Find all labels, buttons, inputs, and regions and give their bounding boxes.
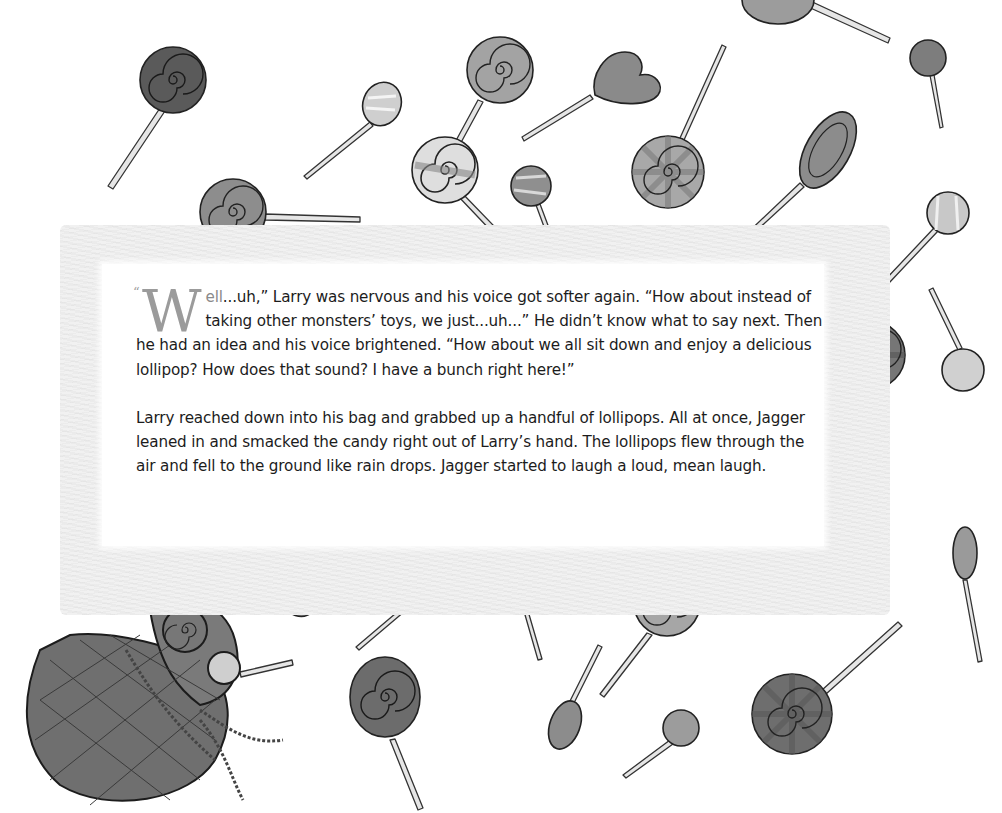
drop-cap: W (142, 289, 201, 333)
storybook-page: “ Well...uh,” Larry was nervous and his … (0, 0, 1002, 813)
drop-cap-rest: ell (205, 288, 222, 306)
paragraph-1-text: ...uh,” Larry was nervous and his voice … (136, 288, 822, 379)
story-paragraph-1: Well...uh,” Larry was nervous and his vo… (136, 285, 826, 382)
open-quote: “ (133, 281, 140, 305)
story-paragraph-2: Larry reached down into his bag and grab… (136, 406, 826, 479)
story-text: “ Well...uh,” Larry was nervous and his … (136, 285, 826, 478)
